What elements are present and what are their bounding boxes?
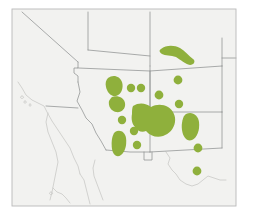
dot-north-arizona-2 [137,84,145,92]
dot-southeast-newmexico [194,144,203,153]
dot-west-arizona [118,116,126,124]
distribution-map-figure [0,0,253,215]
dot-east-newmexico-north [175,100,183,108]
map-canvas [0,0,253,215]
dot-west-texas [193,167,202,176]
dot-colorado-south [174,76,183,85]
dot-north-arizona-1 [127,84,135,92]
dot-central-arizona-south [130,127,138,135]
dot-north-newmexico-1 [155,91,164,100]
dot-south-arizona [133,141,141,149]
